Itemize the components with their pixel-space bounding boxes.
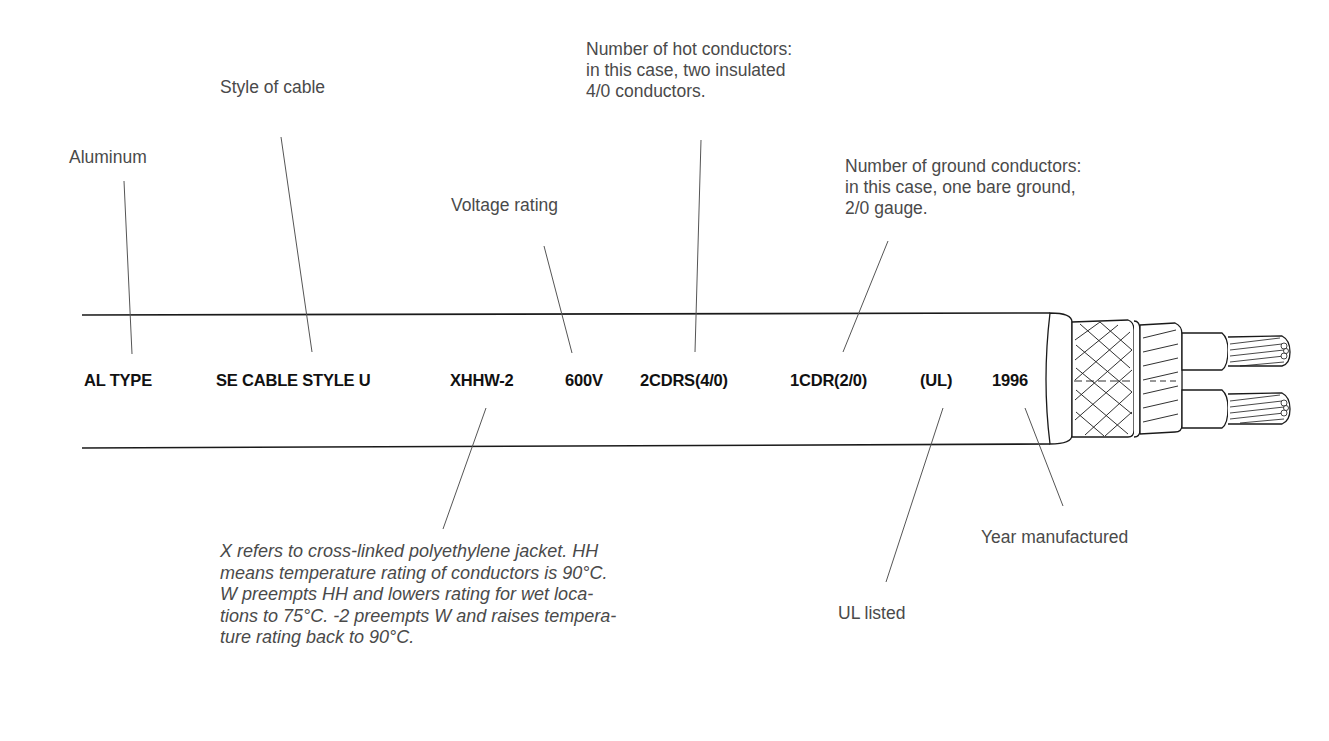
marking-ul: (UL) <box>920 371 952 390</box>
marking-year: 1996 <box>992 371 1028 390</box>
leader-xhhw <box>443 408 486 529</box>
callout-voltage-rating: Voltage rating <box>451 195 558 216</box>
marking-insulation-type: XHHW-2 <box>450 371 514 390</box>
leader-style <box>281 137 312 352</box>
leader-ground <box>843 241 888 352</box>
callout-aluminum: Aluminum <box>69 147 147 168</box>
cable-diagram: AL TYPE SE CABLE STYLE U XHHW-2 600V 2CD… <box>0 0 1329 741</box>
callout-insulation-note: X refers to cross-linked polyethylene ja… <box>220 541 616 649</box>
marking-se-cable-style: SE CABLE STYLE U <box>216 371 371 390</box>
leader-hot <box>695 140 701 352</box>
cable-stripped-end-icon <box>1046 313 1290 444</box>
marking-hot-conductors: 2CDRS(4/0) <box>640 371 728 390</box>
marking-voltage: 600V <box>565 371 603 390</box>
callout-year-manufactured: Year manufactured <box>981 527 1128 548</box>
marking-al-type: AL TYPE <box>84 371 152 390</box>
leader-ul <box>886 408 943 582</box>
leader-voltage <box>544 246 572 353</box>
callout-ul-listed: UL listed <box>838 603 905 624</box>
leader-aluminum <box>124 181 132 354</box>
marking-ground-conductors: 1CDR(2/0) <box>790 371 867 390</box>
callout-hot-conductors: Number of hot conductors: in this case, … <box>586 39 792 102</box>
callout-style-of-cable: Style of cable <box>220 77 325 98</box>
callout-ground-conductors: Number of ground conductors: in this cas… <box>845 156 1081 219</box>
